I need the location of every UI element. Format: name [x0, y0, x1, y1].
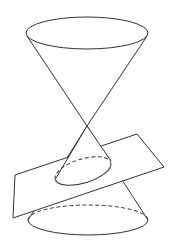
conic-section-diagram: [0, 0, 177, 251]
bottom-rim-front: [28, 220, 148, 235]
upper-cone-rim: [26, 17, 148, 49]
upper-cone: [26, 17, 148, 126]
upper-cone-right-edge: [87, 36, 147, 126]
upper-cone-left-edge: [27, 36, 87, 126]
